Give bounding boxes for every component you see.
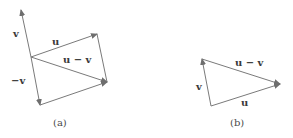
caption-b: (b) [230, 118, 244, 128]
label-u-minus-v-b: u − v [235, 58, 263, 68]
label-u-a: u [52, 37, 59, 47]
vector-subtraction-figure: v u u − v −v (a) u − v v u (b) [0, 0, 293, 138]
vector-u-translated-a [40, 82, 107, 105]
label-neg-v-a: −v [11, 76, 25, 86]
vector-v-b [202, 59, 211, 106]
label-v-b: v [196, 82, 202, 92]
vector-neg-v-a [31, 57, 40, 105]
caption-a: (a) [53, 118, 67, 128]
label-u-b: u [241, 98, 248, 108]
vector-diagram [0, 0, 293, 138]
label-u-minus-v-a: u − v [63, 55, 91, 65]
parallelogram-side-right [97, 34, 107, 82]
vector-v-a [21, 10, 31, 57]
label-v-a: v [13, 29, 19, 39]
